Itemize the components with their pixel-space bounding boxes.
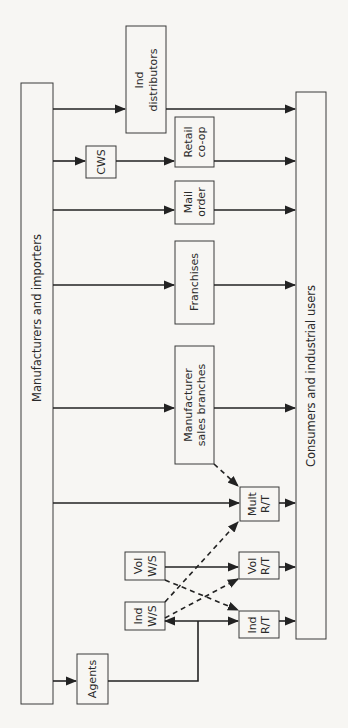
mult-rt-label-2: R/T — [259, 495, 272, 513]
mail-order-node: Mail order — [175, 181, 214, 224]
ind-ws-label-2: W/S — [146, 605, 159, 627]
ind-distributors-label-2: distributors — [147, 48, 160, 111]
ind-rt-label-1: Ind — [246, 616, 259, 633]
ind-distributors-label-1: Ind — [133, 71, 146, 88]
franchises-label: Franchises — [188, 253, 201, 311]
agents-label: Agents — [86, 660, 99, 699]
retail-coop-label-2: co-op — [195, 127, 208, 158]
vol-ws-node: Vol W/S — [125, 552, 165, 580]
consumers-and-industrial-users-node: Consumers and industrial users — [296, 92, 326, 639]
mult-rt-node: Mult R/T — [240, 487, 279, 521]
distribution-channel-diagram: Manufacturers and importers Consumers an… — [0, 0, 348, 728]
vol-rt-label-1: Vol — [246, 558, 259, 574]
vol-ws-label-2: W/S — [146, 555, 159, 577]
manufacturers-and-importers-label: Manufacturers and importers — [30, 234, 44, 402]
agents-node: Agents — [77, 654, 108, 704]
retail-coop-node: Retail co-op — [175, 117, 214, 167]
ind-rt-label-2: R/T — [259, 616, 272, 634]
manufacturer-sales-branches-label-1: Manufacturer — [182, 368, 195, 442]
manufacturer-sales-branches-label-2: sales branches — [195, 364, 208, 447]
cws-label: CWS — [95, 149, 108, 175]
mail-order-label-2: order — [195, 187, 208, 217]
ind-ws-label-1: Ind — [132, 607, 145, 624]
vol-ws-label-1: Vol — [132, 558, 145, 574]
mail-order-label-1: Mail — [182, 191, 195, 213]
ind-rt-node: Ind R/T — [239, 611, 279, 638]
retail-coop-label-1: Retail — [182, 126, 195, 157]
franchises-node: Franchises — [175, 241, 214, 324]
dashed-arrow-sales-branches-to-mult-rt — [214, 464, 238, 486]
ind-ws-node: Ind W/S — [125, 602, 165, 630]
ind-distributors-node: Ind distributors — [126, 26, 166, 133]
manufacturers-and-importers-node: Manufacturers and importers — [21, 83, 53, 704]
manufacturer-sales-branches-node: Manufacturer sales branches — [175, 346, 214, 464]
cws-node: CWS — [86, 146, 116, 178]
consumers-and-industrial-users-label: Consumers and industrial users — [304, 285, 318, 467]
vol-rt-label-2: R/T — [259, 557, 272, 575]
dashed-arrow-vol-ws-to-ind-rt — [165, 580, 238, 610]
mult-rt-label-1: Mult — [246, 491, 259, 516]
dashed-arrow-ind-ws-to-mult-rt — [165, 522, 238, 602]
vol-rt-node: Vol R/T — [239, 552, 279, 579]
